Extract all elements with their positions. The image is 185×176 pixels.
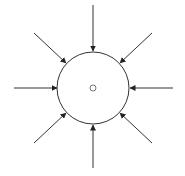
arrow-bottom-right-icon xyxy=(120,113,152,143)
inward-arrows-group xyxy=(14,5,173,168)
outer-circle xyxy=(57,52,129,124)
arrow-top-left-icon xyxy=(34,33,66,63)
radial-inward-force-diagram xyxy=(0,0,185,176)
arrow-bottom-left-icon xyxy=(34,113,66,143)
arrow-top-right-icon xyxy=(120,33,152,63)
center-point-marker xyxy=(90,85,96,91)
